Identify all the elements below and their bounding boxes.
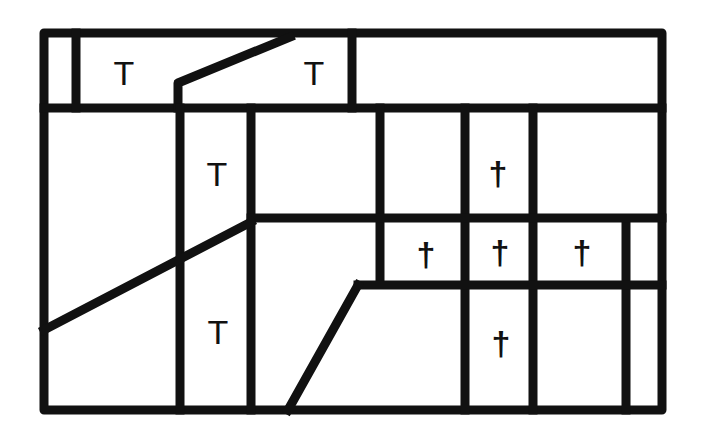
dagger-icon: † [417,237,436,271]
dagger-icon: † [489,156,508,190]
label-T: T [208,315,229,349]
label-T: T [207,157,228,191]
top-diagonal-line [178,37,290,108]
dagger-icon: † [573,235,592,269]
bottom-slant-line [288,285,358,410]
dagger-icon: † [491,235,510,269]
dagger-icon: † [492,326,511,360]
plot-diagram [0,0,704,443]
division-lines [44,33,662,410]
label-T: T [114,56,135,90]
label-T: T [304,56,325,90]
